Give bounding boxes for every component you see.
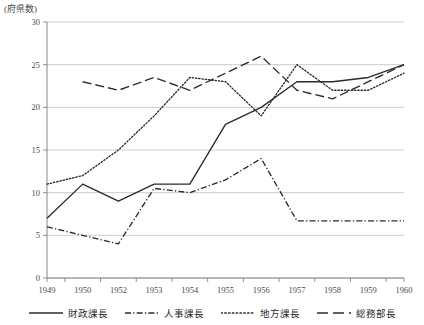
legend-label: 総務部長 bbox=[356, 306, 396, 320]
legend-swatch-dashdot-icon bbox=[125, 308, 159, 318]
y-tick-label: 20 bbox=[32, 102, 41, 112]
legend-swatch-solid-icon bbox=[29, 308, 63, 318]
x-tick-label: 1960 bbox=[396, 285, 413, 295]
series-line-longdash bbox=[83, 56, 404, 99]
y-tick-label: 0 bbox=[36, 273, 40, 283]
series-line-solid bbox=[47, 65, 404, 219]
x-tick-label: 1953 bbox=[146, 285, 163, 295]
x-tick-label: 1952 bbox=[110, 285, 127, 295]
legend-item-jinji[interactable]: 人事課長 bbox=[125, 306, 204, 320]
y-tick-label: 10 bbox=[32, 188, 41, 198]
x-tick-label: 1956 bbox=[253, 285, 270, 295]
y-tick-label: 15 bbox=[32, 145, 41, 155]
y-tick-label: 25 bbox=[32, 60, 41, 70]
x-tick-label: 1958 bbox=[324, 285, 341, 295]
legend-label: 人事課長 bbox=[164, 306, 204, 320]
legend-item-chiho[interactable]: 地方課長 bbox=[221, 306, 300, 320]
x-tick-label: 1957 bbox=[288, 285, 305, 295]
chart-legend: 財政課長 人事課長 地方課長 総務部長 bbox=[0, 300, 424, 325]
y-tick-label: 30 bbox=[32, 17, 41, 27]
x-tick-label: 1949 bbox=[39, 285, 56, 295]
chart-figure: (府県数) 0510152025301949195019521953195419… bbox=[0, 0, 424, 325]
legend-item-somubucho[interactable]: 総務部長 bbox=[317, 306, 396, 320]
x-tick-label: 1959 bbox=[360, 285, 377, 295]
legend-label: 財政課長 bbox=[68, 306, 108, 320]
series-line-dashdot bbox=[47, 159, 404, 244]
x-tick-label: 1955 bbox=[217, 285, 234, 295]
line-chart-svg: 0510152025301949195019521953195419551956… bbox=[0, 0, 424, 300]
legend-label: 地方課長 bbox=[260, 306, 300, 320]
legend-item-zaisei[interactable]: 財政課長 bbox=[29, 306, 108, 320]
y-tick-label: 5 bbox=[36, 230, 40, 240]
legend-swatch-dotted-icon bbox=[221, 308, 255, 318]
x-tick-label: 1950 bbox=[74, 285, 91, 295]
plot-area: 0510152025301949195019521953195419551956… bbox=[0, 0, 424, 300]
legend-swatch-longdash-icon bbox=[317, 308, 351, 318]
x-tick-label: 1954 bbox=[181, 285, 199, 295]
